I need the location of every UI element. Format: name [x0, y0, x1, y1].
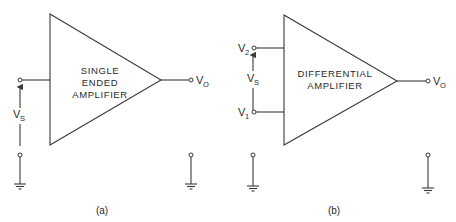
- caption-a: (a): [96, 205, 108, 216]
- panel-b-differential: DIFFERENTIAL AMPLIFIER V 2 V 1 V S: [238, 15, 446, 216]
- caption-b: (b): [328, 205, 340, 216]
- source-voltage-label: V S: [247, 72, 259, 87]
- block-label-line-1: DIFFERENTIAL: [298, 68, 373, 79]
- output-voltage-label: V O: [196, 74, 209, 89]
- v2-label: V 2: [238, 42, 249, 57]
- output-voltage-label: V O: [433, 75, 446, 90]
- svg-text:O: O: [440, 81, 446, 90]
- ground-icon: [422, 188, 434, 193]
- svg-text:2: 2: [245, 48, 249, 57]
- input-ground-terminal: [18, 153, 22, 157]
- block-label-line-2: ENDED: [82, 77, 118, 88]
- ground-icon: [14, 184, 26, 189]
- svg-text:1: 1: [245, 112, 249, 121]
- panel-a-single-ended: SINGLE ENDED AMPLIFIER V S V O: [13, 14, 209, 216]
- ground-icon: [185, 184, 197, 189]
- output-ground-terminal: [189, 153, 193, 157]
- source-voltage-label: V S: [13, 108, 25, 123]
- block-label-line-2: AMPLIFIER: [307, 80, 363, 91]
- block-label-line-3: AMPLIFIER: [72, 89, 128, 100]
- v2-input-terminal: [252, 46, 256, 50]
- amplifier-diagram: SINGLE ENDED AMPLIFIER V S V O: [0, 0, 456, 222]
- v1-input-terminal: [252, 110, 256, 114]
- ground-icon: [247, 186, 259, 191]
- svg-text:S: S: [254, 78, 259, 87]
- output-terminal: [426, 79, 430, 83]
- output-ground-terminal: [426, 153, 430, 157]
- block-label-line-1: SINGLE: [81, 65, 119, 76]
- v1-label: V 1: [238, 106, 249, 121]
- input-ground-terminal: [251, 153, 255, 157]
- input-terminal: [18, 78, 22, 82]
- output-terminal: [189, 78, 193, 82]
- svg-text:O: O: [203, 80, 209, 89]
- svg-text:S: S: [20, 114, 25, 123]
